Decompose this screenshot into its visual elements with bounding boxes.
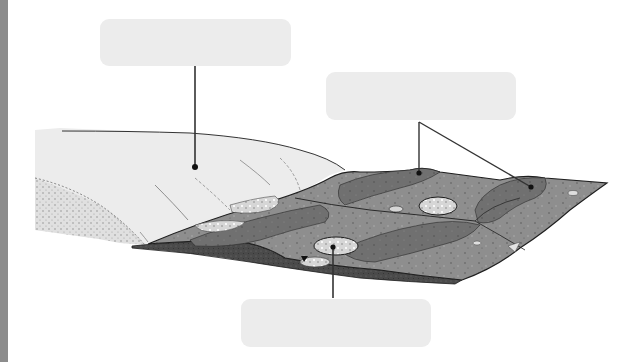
kettle-labeled [314,237,358,255]
label-box-ridges [326,72,516,120]
label-box-kettle [241,299,431,347]
label-box-glacier [100,19,291,66]
kettle-large [419,197,457,215]
